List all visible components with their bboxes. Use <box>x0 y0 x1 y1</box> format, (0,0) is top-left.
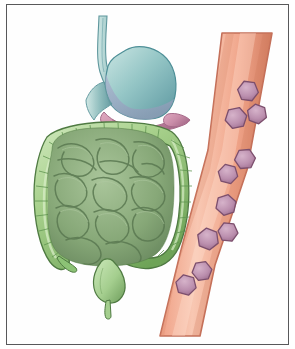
digestive-system-group <box>34 16 192 319</box>
small-intestine <box>48 126 178 270</box>
illustration-artwork <box>0 0 295 349</box>
illustration-root: Medical illustration showing the abdomin… <box>0 0 295 349</box>
pancreas-tail <box>164 113 191 126</box>
anatomy-svg <box>0 0 295 349</box>
urethra <box>105 300 111 319</box>
